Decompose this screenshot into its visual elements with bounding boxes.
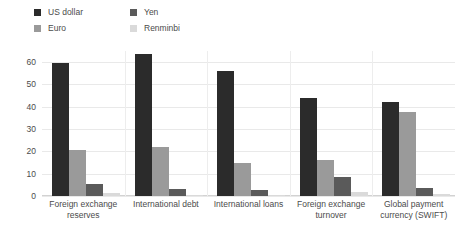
plot-area: 0102030405060: [42, 51, 455, 196]
y-axis-tick-label: 0: [31, 191, 36, 201]
bar-group: [42, 51, 125, 196]
x-axis-label: Foreign exchange reserves: [42, 199, 125, 220]
chart-legend: US dollar Yen Euro Renminbi: [34, 6, 244, 38]
y-axis-tick-label: 60: [27, 57, 36, 67]
bar-us-dollar: [52, 63, 69, 196]
bar-renminbi: [268, 195, 285, 196]
legend-item-us-dollar: US dollar: [34, 6, 130, 19]
legend-label-us-dollar: US dollar: [48, 8, 83, 17]
bar-us-dollar: [300, 98, 317, 196]
bar-euro: [317, 160, 334, 196]
bar-renminbi: [103, 193, 120, 196]
bar-us-dollar: [135, 54, 152, 196]
bar-group: [207, 51, 290, 196]
bar-euro: [69, 150, 86, 196]
legend-swatch-yen: [130, 9, 137, 16]
legend-item-yen: Yen: [130, 6, 226, 19]
x-axis-labels: Foreign exchange reservesInternational d…: [42, 199, 455, 233]
legend-label-euro: Euro: [48, 24, 66, 33]
legend-swatch-euro: [34, 25, 41, 32]
bar-renminbi: [186, 195, 203, 196]
legend-item-renminbi: Renminbi: [130, 22, 226, 35]
bar-group: [290, 51, 373, 196]
bar-yen: [169, 189, 186, 196]
bar-euro: [152, 147, 169, 196]
y-axis-tick-label: 10: [27, 169, 36, 179]
bar-group: [125, 51, 208, 196]
bar-euro: [399, 112, 416, 196]
x-axis-label: International debt: [125, 199, 208, 210]
y-axis-tick-label: 50: [27, 79, 36, 89]
y-axis-tick-label: 20: [27, 146, 36, 156]
grid-line: [42, 196, 455, 197]
bar-euro: [234, 163, 251, 196]
x-axis-label: International loans: [207, 199, 290, 210]
bar-renminbi: [351, 192, 368, 196]
bar-yen: [416, 188, 433, 196]
bar-us-dollar: [382, 102, 399, 196]
bar-yen: [86, 184, 103, 196]
x-axis-label: Global payment currency (SWIFT): [372, 199, 455, 220]
legend-swatch-us-dollar: [34, 9, 41, 16]
y-axis-tick-label: 40: [27, 102, 36, 112]
y-axis-tick-label: 30: [27, 124, 36, 134]
bar-yen: [251, 190, 268, 196]
bar-yen: [334, 177, 351, 196]
legend-swatch-renminbi: [130, 25, 137, 32]
x-axis-label: Foreign exchange turnover: [290, 199, 373, 220]
bar-us-dollar: [217, 71, 234, 196]
bar-renminbi: [433, 194, 450, 196]
bar-chart: US dollar Yen Euro Renminbi 010203040506…: [0, 0, 471, 235]
legend-label-renminbi: Renminbi: [144, 24, 180, 33]
bar-group: [372, 51, 455, 196]
legend-item-euro: Euro: [34, 22, 130, 35]
legend-label-yen: Yen: [144, 8, 158, 17]
